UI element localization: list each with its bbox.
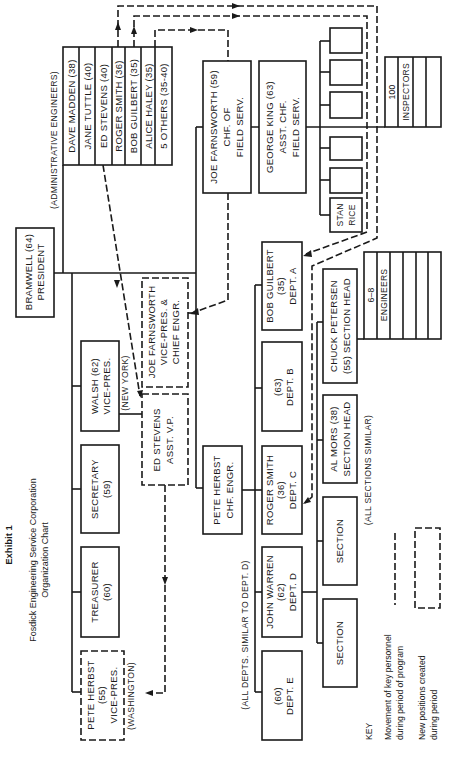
dept-c-age: (36) xyxy=(275,481,286,499)
arrow-right-icon xyxy=(190,27,198,33)
dept-d-age: (62) xyxy=(275,583,286,601)
herbst-vp-box[interactable]: PETE HERBST (55) VICE-PRES. xyxy=(81,651,124,740)
dept-d-label: DEPT. D xyxy=(287,573,298,612)
president-name: BRAMWELL (64) xyxy=(23,234,34,310)
herbst-vp-title: VICE-PRES. xyxy=(108,667,119,724)
legend-dashed-box xyxy=(415,528,440,608)
section-head-title: (55) SECTION HEAD xyxy=(341,278,352,374)
dept-e-age: (60) xyxy=(272,687,283,705)
treasurer-box[interactable]: TREASURER (60) xyxy=(81,547,119,637)
dept-c-box[interactable]: ROGER SMITH (36) DEPT. C xyxy=(262,446,302,534)
field-asst-title2: FIELD SERV. xyxy=(290,97,301,157)
dept-b-box[interactable]: (63) DEPT. B xyxy=(262,342,302,431)
arrow-up-icon xyxy=(115,22,121,30)
chief-engineer-title: CHF. ENGR. xyxy=(224,462,235,519)
arrow-left-icon xyxy=(145,690,153,696)
arrow-left-icon xyxy=(190,308,199,315)
president-box[interactable]: BRAMWELL (64) PRESIDENT xyxy=(16,228,54,317)
legend-new-line2: during period xyxy=(429,690,439,740)
dept-d-head: JOHN WARREN xyxy=(264,555,275,629)
chart-title-line1: Fosdick Engineering Service Corporation xyxy=(28,478,38,642)
walsh-title: VICE-PRES. xyxy=(101,358,112,415)
stevens-avp-box[interactable]: ED STEVENS ASST. V.P. xyxy=(142,394,188,485)
legend-title: KEY xyxy=(364,723,374,740)
inspectors-label: INSPECTORS xyxy=(401,63,411,121)
secretary-title: SECRETARY xyxy=(89,459,100,519)
admin-engineer-item[interactable]: DAVE MADDEN (38) xyxy=(66,59,77,152)
movement-joe-farnsworth-2 xyxy=(192,193,228,313)
dept-b-label: DEPT. B xyxy=(284,368,295,406)
org-chart: Exhibit 1 Fosdick Engineering Service Co… xyxy=(0,0,450,760)
field-supervisor-box[interactable] xyxy=(330,28,362,53)
field-supervisor-box[interactable] xyxy=(330,168,362,193)
section-chuck-petersen-box[interactable]: CHUCK PETERSEN (55) SECTION HEAD xyxy=(323,269,357,383)
chief-engineer-box[interactable]: PETE HERBST CHF. ENGR. xyxy=(203,446,242,534)
legend-movement-line1: Movement of key personnel xyxy=(383,634,393,740)
field-chief-title2: FIELD SERV. xyxy=(234,97,245,157)
stan-rice-last: RICE xyxy=(347,204,357,225)
stan-rice-box[interactable]: STAN RICE xyxy=(330,198,362,232)
chart-title-line2: Organization Chart xyxy=(40,522,50,598)
sections-note: (ALL SECTIONS SIMILAR) xyxy=(363,415,373,525)
secretary-box[interactable]: SECRETARY (59) xyxy=(81,445,119,533)
dept-a-head: BOB GUILBERT xyxy=(264,249,275,323)
walsh-name: WALSH (62) xyxy=(89,358,100,414)
arrow-up-icon xyxy=(131,26,137,34)
section-head-title: SECTION HEAD xyxy=(341,402,352,477)
field-service-chief-box[interactable]: JOE FARNSWORTH (59) CHF. OF FIELD SERV. xyxy=(203,61,251,193)
field-asst-title: ASST. CHF. xyxy=(277,100,288,153)
farnsworth-vp-name: JOE FARNSWORTH xyxy=(146,286,157,379)
dept-e-box[interactable]: (60) DEPT. E xyxy=(262,651,302,740)
walsh-location: (NEW YORK) xyxy=(120,355,130,410)
president-title: PRESIDENT xyxy=(35,243,46,300)
dept-b-age: (63) xyxy=(272,378,283,396)
arrow-down-icon xyxy=(114,280,120,288)
field-chief-title: CHF. OF xyxy=(221,107,232,146)
chief-engineer-name: PETE HERBST xyxy=(211,455,222,524)
herbst-vp-name: PETE HERBST xyxy=(85,660,96,729)
field-chief-name: JOE FARNSWORTH (59) xyxy=(208,70,219,184)
admin-engineer-item[interactable]: JANE TUTTLE (40) xyxy=(82,63,93,150)
admin-engineer-item[interactable]: BOB GUILBERT (35) xyxy=(128,59,139,154)
stevens-avp-name: ED STEVENS xyxy=(151,408,162,471)
section-box[interactable]: SECTION xyxy=(323,599,357,687)
field-supervisor-box[interactable] xyxy=(330,92,362,118)
inspectors-box[interactable]: 100 INSPECTORS xyxy=(385,57,441,127)
treasurer-age: (60) xyxy=(101,583,112,601)
section-label: SECTION xyxy=(334,621,345,665)
admin-engineers-label: (ADMINISTRATIVE ENGINEERS) xyxy=(49,71,59,209)
engineers-label: ENGINEERS xyxy=(379,269,389,321)
engineers-count: 6–8 xyxy=(366,288,376,303)
stan-rice-first: STAN xyxy=(335,203,345,226)
admin-engineer-item[interactable]: ROGER SMITH (36) xyxy=(113,60,124,151)
engineers-box[interactable]: 6–8 ENGINEERS xyxy=(364,252,441,339)
field-supervisor-boxes: STAN RICE xyxy=(330,28,362,232)
field-supervisor-box[interactable] xyxy=(330,60,362,85)
farnsworth-vp-title2: CHIEF ENGR. xyxy=(170,300,181,365)
admin-engineer-item[interactable]: ED STEVENS (40) xyxy=(98,64,109,148)
field-asst-name: GEORGE KING (63) xyxy=(264,81,275,173)
stevens-avp-title: ASST. V.P. xyxy=(164,416,175,464)
field-supervisor-box[interactable] xyxy=(330,137,362,160)
dept-c-head: ROGER SMITH xyxy=(264,455,275,525)
departments-note: (ALL DEPTS. SIMILAR TO DEPT. D) xyxy=(240,560,250,710)
arrow-right-icon xyxy=(232,13,240,19)
section-al-mors-box[interactable]: AL MORS (38) SECTION HEAD xyxy=(323,395,357,483)
herbst-location: (WASHINGTON) xyxy=(126,662,136,730)
section-box[interactable]: SECTION xyxy=(323,497,357,585)
admin-engineer-item[interactable]: 5 OTHERS (35-40) xyxy=(158,63,169,149)
dept-d-box[interactable]: JOHN WARREN (62) DEPT. D xyxy=(262,547,302,637)
section-head-name: AL MORS (38) xyxy=(328,406,339,472)
arrow-right-icon xyxy=(232,3,240,9)
legend-new-line1: New positions created xyxy=(417,655,427,740)
admin-engineer-item[interactable]: ALICE HALEY (35) xyxy=(143,63,154,148)
farnsworth-vp-box[interactable]: JOE FARNSWORTH VICE-PRES. & CHIEF ENGR. xyxy=(142,278,188,387)
dept-a-age: (35) xyxy=(275,277,286,295)
field-service-assistant-box[interactable]: GEORGE KING (63) ASST. CHF. FIELD SERV. xyxy=(259,61,306,193)
legend: KEY Movement of key personnel during per… xyxy=(364,528,440,740)
dept-a-box[interactable]: BOB GUILBERT (35) DEPT. A xyxy=(262,242,302,330)
section-label: SECTION xyxy=(334,519,345,563)
walsh-vp-box[interactable]: WALSH (62) VICE-PRES. xyxy=(81,341,119,431)
secretary-age: (59) xyxy=(101,480,112,498)
dept-a-label: DEPT. A xyxy=(287,267,298,305)
